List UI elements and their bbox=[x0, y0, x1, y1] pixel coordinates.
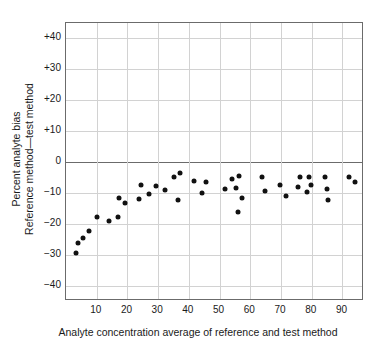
x-axis-tick-label: 20 bbox=[121, 305, 132, 315]
data-point bbox=[236, 173, 241, 178]
y-axis-tick-label: +30 bbox=[44, 63, 61, 73]
data-point bbox=[75, 241, 80, 246]
data-point bbox=[178, 170, 183, 175]
data-point bbox=[192, 179, 197, 184]
zero-reference-line bbox=[66, 162, 362, 163]
x-axis-tick-labels: 102030405060708090 bbox=[65, 305, 363, 319]
gridline-vertical bbox=[220, 23, 221, 299]
data-point bbox=[298, 174, 303, 179]
gridline-vertical bbox=[158, 23, 159, 299]
gridline-vertical bbox=[97, 23, 98, 299]
data-point bbox=[95, 214, 100, 219]
data-point bbox=[283, 194, 288, 199]
data-point bbox=[203, 180, 208, 185]
gridline-vertical bbox=[127, 23, 128, 299]
data-point bbox=[137, 196, 142, 201]
data-point bbox=[304, 189, 309, 194]
data-point bbox=[353, 180, 358, 185]
data-point bbox=[323, 174, 328, 179]
data-point bbox=[107, 219, 112, 224]
gridline-horizontal bbox=[66, 69, 362, 70]
y-axis-tick-label: +10 bbox=[44, 125, 61, 135]
data-point bbox=[324, 186, 329, 191]
gridline-vertical bbox=[281, 23, 282, 299]
y-axis-tick-label: −40 bbox=[44, 280, 61, 290]
data-point bbox=[223, 186, 228, 191]
gridline-horizontal bbox=[66, 38, 362, 39]
x-axis-tick-label: 40 bbox=[182, 305, 193, 315]
gridline-vertical bbox=[189, 23, 190, 299]
data-point bbox=[175, 197, 180, 202]
gridline-vertical bbox=[312, 23, 313, 299]
gridline-horizontal bbox=[66, 100, 362, 101]
x-axis-tick-label: 60 bbox=[244, 305, 255, 315]
gridline-horizontal bbox=[66, 255, 362, 256]
y-axis-tick-label: −10 bbox=[44, 187, 61, 197]
data-point bbox=[138, 183, 143, 188]
data-point bbox=[74, 250, 79, 255]
x-axis-tick-label: 30 bbox=[152, 305, 163, 315]
gridline-vertical bbox=[342, 23, 343, 299]
data-point bbox=[229, 176, 234, 181]
y-axis-tick-label: −20 bbox=[44, 218, 61, 228]
scatter-chart-figure: Percent analyte bias Reference method—te… bbox=[0, 0, 382, 344]
data-point bbox=[87, 228, 92, 233]
data-point bbox=[116, 196, 121, 201]
x-axis-tick-label: 80 bbox=[305, 305, 316, 315]
data-point bbox=[263, 189, 268, 194]
data-point bbox=[81, 236, 86, 241]
y-axis-tick-label: 0 bbox=[55, 156, 61, 166]
y-axis-tick-label: +20 bbox=[44, 94, 61, 104]
data-point bbox=[347, 175, 352, 180]
data-point bbox=[162, 188, 167, 193]
data-point bbox=[278, 183, 283, 188]
data-point bbox=[200, 190, 205, 195]
plot-area bbox=[65, 22, 363, 300]
data-point bbox=[260, 175, 265, 180]
data-point bbox=[308, 182, 313, 187]
data-point bbox=[171, 174, 176, 179]
gridline-vertical bbox=[250, 23, 251, 299]
data-point bbox=[115, 214, 120, 219]
gridline-horizontal bbox=[66, 224, 362, 225]
gridline-horizontal bbox=[66, 193, 362, 194]
data-point bbox=[153, 184, 158, 189]
data-point bbox=[234, 186, 239, 191]
y-axis-tick-labels: +40+30+20+100−10−20−30−40 bbox=[0, 22, 61, 300]
data-point bbox=[295, 184, 300, 189]
x-axis-tick-label: 70 bbox=[274, 305, 285, 315]
x-axis-title: Analyte concentration average of referen… bbox=[0, 326, 382, 338]
data-point bbox=[236, 210, 241, 215]
data-point bbox=[240, 195, 245, 200]
gridline-horizontal bbox=[66, 286, 362, 287]
data-point bbox=[122, 201, 127, 206]
data-point bbox=[326, 197, 331, 202]
y-axis-tick-label: +40 bbox=[44, 32, 61, 42]
x-axis-tick-label: 10 bbox=[90, 305, 101, 315]
x-axis-tick-label: 90 bbox=[336, 305, 347, 315]
data-point bbox=[146, 191, 151, 196]
x-axis-tick-label: 50 bbox=[213, 305, 224, 315]
y-axis-tick-label: −30 bbox=[44, 249, 61, 259]
gridline-horizontal bbox=[66, 131, 362, 132]
data-point bbox=[307, 175, 312, 180]
